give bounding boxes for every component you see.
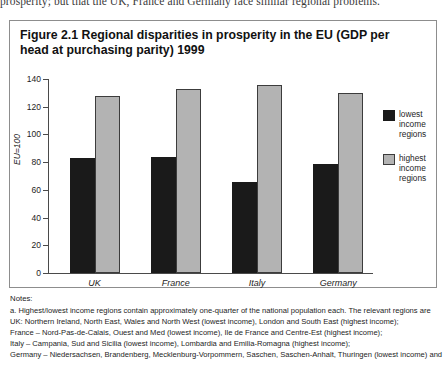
bar-group <box>313 79 363 273</box>
y-tick-label: 120 <box>14 102 41 112</box>
bar-highest <box>95 96 120 273</box>
bar-highest <box>338 93 363 273</box>
y-tick-label: 80 <box>14 157 41 167</box>
x-tick-label: France <box>136 278 216 288</box>
legend-label-highest: highest income regions <box>399 153 439 184</box>
y-tick-label: 40 <box>14 213 41 223</box>
bar-lowest <box>232 182 257 273</box>
legend-label-lowest: lowest income regions <box>399 109 439 140</box>
y-tick <box>43 162 48 163</box>
x-tick-label: Italy <box>217 278 297 288</box>
bar-chart-plot: EU=100 020406080100120140 UKFranceItalyG… <box>48 79 373 274</box>
figure-notes: Notes: a. Highest/lowest income regions … <box>10 294 440 361</box>
note-line: UK: Northern Ireland, North East, Wales … <box>10 317 440 328</box>
running-body-text: prosperity; but that the UK, France and … <box>0 0 444 9</box>
bar-highest <box>257 85 282 273</box>
y-tick <box>43 134 48 135</box>
note-line: France – Nord-Pas-de-Calais, Ouest and M… <box>10 328 440 339</box>
chart-legend: lowest income regions highest income reg… <box>383 109 439 196</box>
y-tick <box>43 79 48 80</box>
note-line: Italy – Campania, Sud and Sicilia (lowes… <box>10 339 440 350</box>
notes-lines: a. Highest/lowest income regions contain… <box>10 306 440 361</box>
y-tick <box>43 245 48 246</box>
legend-item-lowest: lowest income regions <box>383 109 439 140</box>
y-tick <box>43 107 48 108</box>
y-tick-label: 20 <box>14 240 41 250</box>
legend-swatch-highest-icon <box>383 154 395 165</box>
x-tick-label: UK <box>55 278 135 288</box>
y-tick-label: 0 <box>14 268 41 278</box>
bar-group <box>151 79 201 273</box>
bar-group <box>232 79 282 273</box>
figure-panel: Figure 2.1 Regional disparities in prosp… <box>9 20 437 288</box>
bar-lowest <box>70 158 95 273</box>
y-tick <box>43 273 48 274</box>
notes-heading: Notes: <box>10 294 440 305</box>
note-line: a. Highest/lowest income regions contain… <box>10 306 440 317</box>
note-line: Germany – Niedersachsen, Brandenberg, Me… <box>10 350 440 361</box>
x-axis-line <box>48 273 373 274</box>
bar-lowest <box>151 157 176 273</box>
figure-title: Figure 2.1 Regional disparities in prosp… <box>20 28 420 58</box>
x-tick-label: Germany <box>298 278 378 288</box>
y-tick <box>43 190 48 191</box>
bar-highest <box>176 89 201 273</box>
y-tick <box>43 218 48 219</box>
bar-group <box>70 79 120 273</box>
bar-lowest <box>313 164 338 273</box>
y-tick-label: 60 <box>14 185 41 195</box>
legend-item-highest: highest income regions <box>383 153 439 184</box>
legend-swatch-lowest-icon <box>383 110 395 121</box>
y-axis-line <box>48 79 49 274</box>
y-tick-label: 140 <box>14 74 41 84</box>
y-tick-label: 100 <box>14 129 41 139</box>
